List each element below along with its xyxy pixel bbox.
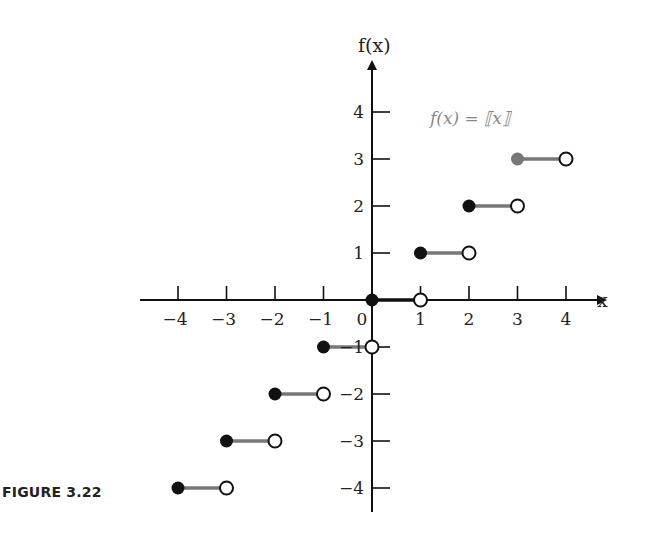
x-tick-label: 3 [512, 309, 523, 329]
open-endpoint [414, 294, 427, 307]
x-tick-label: 4 [561, 309, 572, 329]
closed-endpoint [463, 200, 476, 213]
figure-caption: FIGURE 3.22 [2, 484, 102, 500]
x-tick-label: 1 [415, 309, 426, 329]
open-endpoint [220, 482, 233, 495]
y-tick-label: 4 [353, 102, 364, 122]
step-function-chart: −4−3−2−1012344321−1−2−3−4 x f(x) f(x) = … [0, 0, 668, 544]
function-formula-label: f(x) = ⟦x⟧ [428, 108, 512, 128]
closed-endpoint [511, 153, 524, 166]
closed-endpoint [317, 341, 330, 354]
axes [140, 62, 605, 512]
y-tick-label: −1 [339, 337, 364, 357]
open-endpoint [317, 388, 330, 401]
y-axis-label: f(x) [358, 34, 391, 56]
x-tick-label: 2 [464, 309, 475, 329]
y-tick-label: −4 [339, 478, 364, 498]
closed-endpoint [269, 388, 282, 401]
x-axis-label: x [597, 289, 608, 311]
closed-endpoint [172, 482, 185, 495]
x-tick-label: −4 [162, 309, 187, 329]
y-tick-label: 1 [353, 243, 364, 263]
x-tick-label: −2 [259, 309, 284, 329]
y-tick-label: −2 [339, 384, 364, 404]
closed-endpoint [220, 435, 233, 448]
open-endpoint [366, 341, 379, 354]
x-tick-label: −1 [308, 309, 333, 329]
open-endpoint [269, 435, 282, 448]
closed-endpoint [414, 247, 427, 260]
y-tick-label: −3 [339, 431, 364, 451]
y-tick-label: 3 [353, 149, 364, 169]
x-tick-label: 0 [357, 309, 368, 329]
open-endpoint [560, 153, 573, 166]
closed-endpoint [366, 294, 379, 307]
x-tick-label: −3 [211, 309, 236, 329]
open-endpoint [463, 247, 476, 260]
y-tick-label: 2 [353, 196, 364, 216]
open-endpoint [511, 200, 524, 213]
